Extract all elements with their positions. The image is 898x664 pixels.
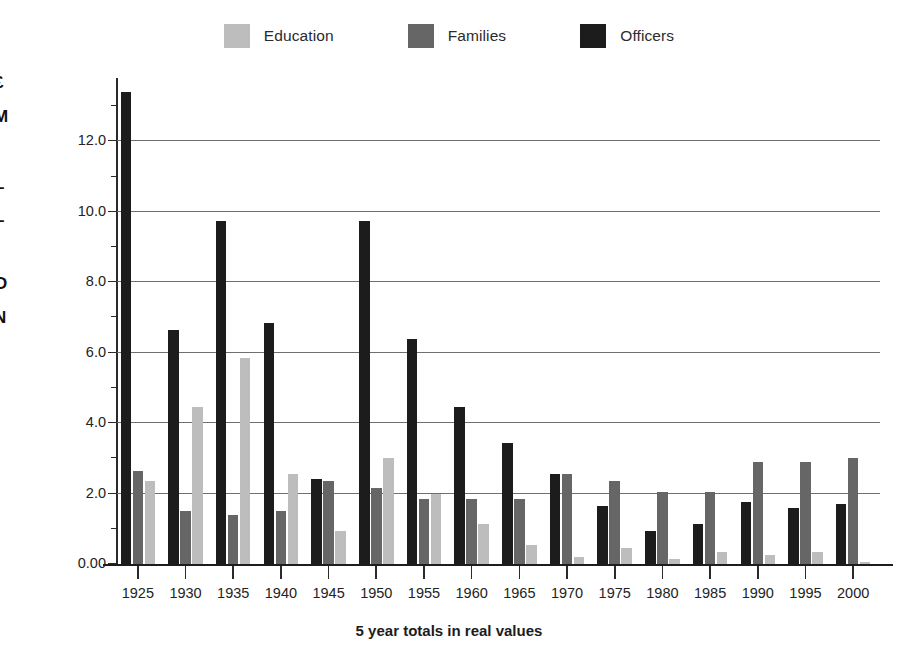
- bar-families-1970[interactable]: [562, 474, 573, 564]
- bar-officers-1985[interactable]: [693, 524, 704, 565]
- bar-officers-1925[interactable]: [121, 92, 132, 564]
- bar-education-1975[interactable]: [621, 548, 632, 564]
- bar-education-1930[interactable]: [192, 407, 203, 564]
- x-axis-tick: [375, 566, 377, 579]
- plot-area: [117, 78, 880, 564]
- bar-group: [693, 78, 728, 564]
- bar-families-1940[interactable]: [276, 511, 287, 564]
- bar-group: [121, 78, 156, 564]
- bar-officers-1930[interactable]: [168, 330, 179, 564]
- bar-education-1985[interactable]: [717, 552, 728, 564]
- y-axis-minor-tick: [111, 387, 117, 388]
- x-axis-tick: [519, 566, 521, 579]
- bar-families-1945[interactable]: [323, 481, 334, 564]
- bar-group: [168, 78, 203, 564]
- x-axis-tick: [662, 566, 664, 579]
- bar-officers-1935[interactable]: [216, 221, 227, 564]
- x-axis-title: 5 year totals in real values: [0, 622, 898, 639]
- bar-education-1925[interactable]: [145, 481, 156, 564]
- x-axis-tick-label-2000: 2000: [823, 585, 883, 601]
- bar-officers-1975[interactable]: [597, 506, 608, 564]
- bar-group: [311, 78, 346, 564]
- bar-group: [454, 78, 489, 564]
- y-axis-tick: [108, 140, 117, 141]
- bar-families-1930[interactable]: [180, 511, 191, 564]
- bar-group: [264, 78, 299, 564]
- bar-education-1995[interactable]: [812, 552, 823, 564]
- x-axis-tick: [805, 566, 807, 579]
- bar-families-1985[interactable]: [705, 492, 716, 564]
- y-axis-minor-tick: [111, 246, 117, 247]
- bar-families-1995[interactable]: [800, 462, 811, 564]
- y-axis-tick: [108, 422, 117, 423]
- x-axis-tick: [614, 566, 616, 579]
- y-axis-tick: [108, 211, 117, 212]
- bar-families-1965[interactable]: [514, 499, 525, 564]
- bar-group: [502, 78, 537, 564]
- bar-officers-1960[interactable]: [454, 407, 465, 564]
- y-axis-minor-tick: [111, 457, 117, 458]
- bar-group: [550, 78, 585, 564]
- bar-officers-1950[interactable]: [359, 221, 370, 564]
- bar-group: [788, 78, 823, 564]
- plot-area-wrapper: [0, 0, 898, 664]
- bar-group: [597, 78, 632, 564]
- bar-group: [216, 78, 251, 564]
- bar-families-1980[interactable]: [657, 492, 668, 564]
- y-axis-tick: [108, 352, 117, 353]
- bar-officers-1990[interactable]: [741, 502, 752, 564]
- y-axis-tick: [108, 493, 117, 494]
- bar-education-1960[interactable]: [478, 524, 489, 565]
- y-axis-minor-tick: [111, 316, 117, 317]
- bar-officers-1980[interactable]: [645, 531, 656, 564]
- x-axis-tick: [423, 566, 425, 579]
- bar-families-1950[interactable]: [371, 488, 382, 564]
- bar-families-1975[interactable]: [609, 481, 620, 564]
- bar-education-1940[interactable]: [288, 474, 299, 564]
- bar-education-1970[interactable]: [574, 557, 585, 564]
- bar-families-1990[interactable]: [753, 462, 764, 564]
- bar-education-2000[interactable]: [860, 562, 871, 564]
- bar-officers-2000[interactable]: [836, 504, 847, 564]
- bar-families-1960[interactable]: [466, 499, 477, 564]
- bar-education-1980[interactable]: [669, 559, 680, 564]
- y-axis-tick: [108, 563, 117, 564]
- bar-families-2000[interactable]: [848, 458, 859, 564]
- y-axis-minor-tick: [111, 528, 117, 529]
- x-axis-tick: [185, 566, 187, 579]
- bar-chart: EducationFamiliesOfficers £MILLION 0.002…: [0, 0, 898, 664]
- bar-group: [407, 78, 442, 564]
- bar-officers-1940[interactable]: [264, 323, 275, 564]
- bar-officers-1955[interactable]: [407, 339, 418, 564]
- bar-group: [741, 78, 776, 564]
- x-axis-tick: [709, 566, 711, 579]
- bar-education-1965[interactable]: [526, 545, 537, 564]
- bar-education-1950[interactable]: [383, 458, 394, 564]
- x-axis-tick: [137, 566, 139, 579]
- bar-officers-1945[interactable]: [311, 479, 322, 564]
- bar-officers-1970[interactable]: [550, 474, 561, 564]
- bar-education-1990[interactable]: [765, 555, 776, 564]
- bar-group: [359, 78, 394, 564]
- bar-education-1945[interactable]: [335, 531, 346, 564]
- x-axis-tick: [471, 566, 473, 579]
- bar-group: [836, 78, 871, 564]
- bar-families-1925[interactable]: [133, 471, 144, 564]
- bar-officers-1965[interactable]: [502, 443, 513, 565]
- x-axis-tick: [232, 566, 234, 579]
- x-axis-tick: [757, 566, 759, 579]
- bar-education-1955[interactable]: [431, 494, 442, 564]
- bar-families-1955[interactable]: [419, 499, 430, 564]
- bar-group: [645, 78, 680, 564]
- bar-officers-1995[interactable]: [788, 508, 799, 564]
- bar-families-1935[interactable]: [228, 515, 239, 564]
- x-axis-tick: [852, 566, 854, 579]
- x-axis-tick: [280, 566, 282, 579]
- x-axis-tick: [328, 566, 330, 579]
- x-axis-tick: [566, 566, 568, 579]
- y-axis-tick: [108, 281, 117, 282]
- y-axis-minor-tick: [111, 105, 117, 106]
- y-axis-minor-tick: [111, 176, 117, 177]
- bar-education-1935[interactable]: [240, 358, 251, 564]
